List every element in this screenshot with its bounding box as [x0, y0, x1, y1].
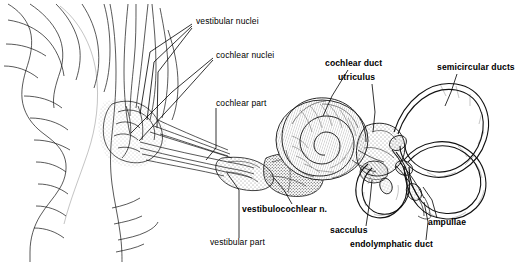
label-semicircular-ducts: semicircular ducts [437, 63, 515, 72]
leader-sacculus [366, 180, 372, 226]
label-cochlear-part: cochlear part [216, 99, 266, 108]
label-cochlear-nuclei: cochlear nuclei [216, 51, 274, 60]
brainstem-shading [60, 6, 167, 224]
label-sacculus: sacculus [330, 226, 368, 235]
label-vestibular-nuclei: vestibular nuclei [196, 17, 259, 26]
leader-cochlear-nuclei-b [139, 60, 213, 141]
label-vestibulocochlear-n: vestibulocochlear n. [242, 205, 327, 214]
label-utriculus: utriculus [338, 73, 375, 82]
anatomy-figure: vestibular nuclei cochlear nuclei cochle… [0, 0, 520, 264]
label-cochlear-duct: cochlear duct [325, 59, 382, 68]
label-ampullae: ampullae [428, 218, 466, 227]
leader-vestibular-nuclei-b [147, 26, 192, 120]
label-vestibular-part: vestibular part [210, 238, 265, 247]
label-endolymphatic-duct: endolymphatic duct [350, 240, 433, 249]
